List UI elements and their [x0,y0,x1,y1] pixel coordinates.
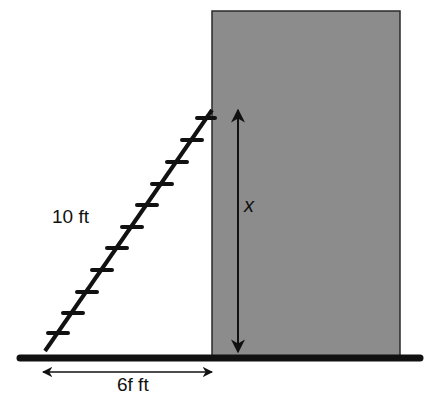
diagram-graphics [0,0,430,402]
base-distance-label: 6f ft [117,374,149,396]
height-variable-label: x [244,194,254,217]
building [212,11,400,356]
ladder-length-label: 10 ft [52,206,89,228]
ladder-diagram: 10 ft 6f ft x [0,0,430,402]
